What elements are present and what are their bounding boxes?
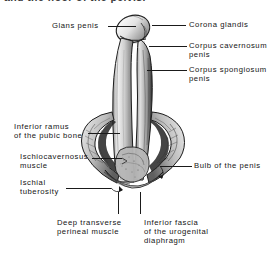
label-inferior-fascia-of-urogenital-diaphragm: Inferior fascia of the urogenital diaphr… — [144, 218, 208, 246]
label-deep-transverse-perineal-muscle: Deep transverse perineal muscle — [57, 218, 122, 236]
label-corpus-cavernosum-penis: Corpus cavernosum penis — [189, 41, 267, 59]
leader-deep-transverse — [118, 192, 119, 214]
ischial-tuberosity-pointer — [111, 186, 123, 192]
inferior-pubic-ramus-right — [147, 112, 185, 183]
label-inferior-ramus-of-pubic-bone: Inferior ramus of the pubic bone — [14, 122, 82, 140]
label-glans-penis: Glans penis — [52, 21, 99, 30]
label-corpus-spongiosum-penis: Corpus spongiosum penis — [189, 65, 267, 83]
label-corona-glandis: Corona glandis — [189, 20, 248, 29]
label-bulb-of-the-penis: Bulb of the penis — [194, 161, 261, 170]
leader-bulb-penis — [160, 166, 192, 167]
leader-glans-penis — [108, 26, 136, 27]
label-ischiocavernosus-muscle: Ischiocavernosus muscle — [20, 152, 88, 170]
leader-corona-glandis — [152, 25, 186, 26]
leader-corpus-spongiosum — [147, 70, 187, 71]
figure-panel: and the floor of the pelvis. — [0, 0, 278, 254]
leader-ischial-tuberosity — [66, 188, 111, 189]
leader-inferior-ramus — [88, 133, 120, 134]
leader-ischiocavernosus — [92, 158, 122, 159]
leader-inferior-fascia — [140, 192, 141, 214]
leader-corpus-cavernosum — [149, 46, 187, 47]
label-ischial-tuberosity: Ischial tuberosity — [20, 178, 59, 196]
